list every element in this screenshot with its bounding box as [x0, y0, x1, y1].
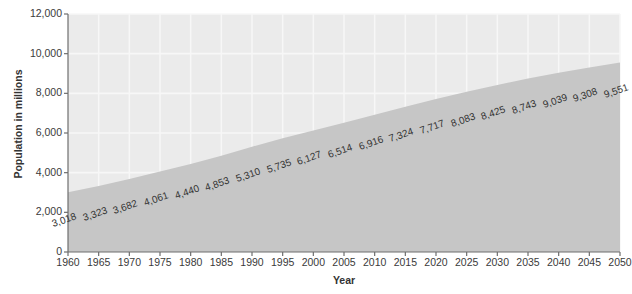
y-tick-label: 10,000	[30, 47, 62, 59]
x-tick-label: 2040	[547, 256, 570, 268]
x-tick-label: 1980	[179, 256, 202, 268]
x-tick-label: 2025	[455, 256, 478, 268]
y-tick-label: 12,000	[30, 7, 62, 19]
y-axis-tick-labels: 02,0004,0006,0008,00010,00012,000	[0, 0, 62, 294]
y-tick-label: 4,000	[36, 166, 62, 178]
x-tick-label: 2000	[302, 256, 325, 268]
x-tick-label: 1970	[118, 256, 141, 268]
x-tick-label: 2015	[394, 256, 417, 268]
x-tick-label: 1995	[271, 256, 294, 268]
x-tick-label: 2005	[332, 256, 355, 268]
y-tick-label: 8,000	[36, 86, 62, 98]
x-tick-label: 1985	[210, 256, 233, 268]
x-tick-label: 2050	[608, 256, 631, 268]
x-tick-label: 2030	[486, 256, 509, 268]
plot-area	[0, 0, 632, 294]
x-tick-label: 1990	[240, 256, 263, 268]
y-tick-label: 6,000	[36, 126, 62, 138]
x-tick-label: 2045	[578, 256, 601, 268]
x-tick-label: 1965	[87, 256, 110, 268]
x-tick-label: 2020	[424, 256, 447, 268]
x-tick-label: 2010	[363, 256, 386, 268]
x-axis-title: Year	[68, 274, 620, 286]
population-area-chart: Population in millions Year 02,0004,0006…	[0, 0, 632, 294]
x-tick-label: 2035	[516, 256, 539, 268]
x-tick-label: 1975	[148, 256, 171, 268]
x-tick-label: 1960	[56, 256, 79, 268]
